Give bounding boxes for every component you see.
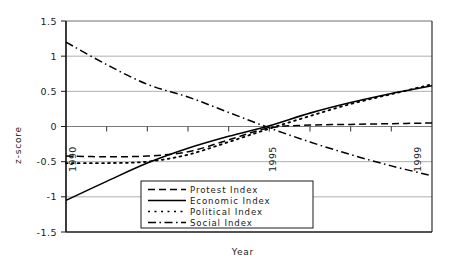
x-tick-label-1990: 1990 bbox=[67, 146, 78, 172]
x-tick-label-1995: 1995 bbox=[267, 146, 278, 172]
legend-label-political: Political Index bbox=[190, 207, 263, 217]
y-tick-label-2: 1 bbox=[50, 51, 57, 62]
legend-label-protest: Protest Index bbox=[190, 185, 258, 195]
legend-label-economic: Economic Index bbox=[190, 196, 271, 206]
y-tick-label-1: 1.5 bbox=[40, 16, 57, 27]
chart-legend: Protest Index Economic Index Political I… bbox=[141, 181, 313, 228]
chart-container: 1.5 1 0.5 0 -0.5 -1 -1.5 z-score 1990 19… bbox=[0, 0, 452, 265]
y-tick-label-5: -0.5 bbox=[36, 156, 57, 167]
y-axis-title: z-score bbox=[13, 126, 23, 164]
line-chart: 1.5 1 0.5 0 -0.5 -1 -1.5 z-score 1990 19… bbox=[0, 0, 452, 265]
legend-label-social: Social Index bbox=[190, 218, 253, 228]
y-tick-label-6: -1 bbox=[47, 191, 57, 202]
y-tick-label-7: -1.5 bbox=[36, 227, 57, 238]
y-tick-label-3: 0.5 bbox=[40, 86, 57, 97]
y-tick-label-4: 0 bbox=[50, 121, 57, 132]
x-axis-title: Year bbox=[231, 247, 254, 257]
x-tick-label-1999: 1999 bbox=[412, 146, 423, 172]
